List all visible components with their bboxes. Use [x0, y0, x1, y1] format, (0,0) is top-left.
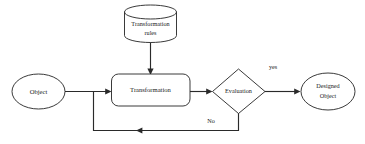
designed-object-label-line1: Designed — [316, 82, 340, 89]
arrowhead-right-icon — [206, 88, 212, 94]
edge-transformation-to-evaluation — [190, 88, 213, 94]
designed-object-label-line2: Object — [320, 92, 337, 99]
flow-diagram-canvas: Transformation rules Object Transformati… — [0, 0, 365, 144]
node-evaluation: Evaluation — [213, 69, 266, 114]
node-designed-object: Designed Object — [301, 73, 355, 110]
node-input-object: Object — [12, 74, 65, 109]
transformation-label: Transformation — [130, 86, 171, 93]
cylinder-top — [125, 5, 177, 19]
arrowhead-right-icon — [294, 88, 300, 94]
input-object-label: Object — [30, 88, 48, 95]
edge-label-no: No — [207, 117, 215, 124]
edge-label-yes: yes — [269, 63, 278, 70]
evaluation-label: Evaluation — [225, 87, 252, 94]
edge-evaluation-to-designed-object — [265, 88, 301, 94]
arrowhead-left-icon — [136, 127, 142, 133]
node-rules-store: Transformation rules — [125, 5, 177, 43]
node-transformation: Transformation — [112, 74, 191, 106]
rules-store-label-line1: Transformation — [131, 20, 169, 27]
edge-rules-to-transformation — [147, 42, 153, 75]
flow-diagram: Transformation rules Object Transformati… — [0, 0, 365, 144]
rules-store-label-line2: rules — [144, 29, 157, 36]
